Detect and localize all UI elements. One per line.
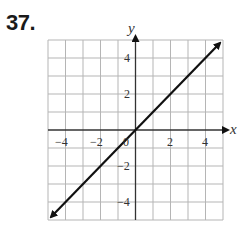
y-tick: −2	[117, 159, 130, 173]
y-tick: 2	[124, 87, 130, 101]
y-tick: −4	[117, 195, 130, 209]
x-tick: 2	[167, 135, 173, 149]
x-tick: −2	[90, 135, 103, 149]
y-axis-label: y	[126, 20, 135, 36]
x-axis-label: x	[229, 121, 237, 137]
coordinate-graph: x y −4 −2 0 2 4 4 2 −2 −4	[0, 0, 244, 238]
plotted-line	[136, 43, 221, 130]
x-tick: −4	[55, 135, 68, 149]
x-tick: 0	[123, 135, 129, 149]
x-tick: 4	[202, 135, 208, 149]
y-tick: 4	[124, 51, 130, 65]
